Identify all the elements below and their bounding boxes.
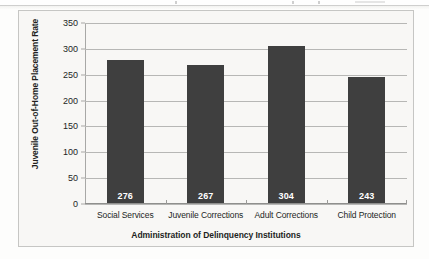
y-axis-title: Juvenile Out-of-Home Placement Rate — [30, 14, 40, 174]
chart-screenshot: Juvenile Out-of-Home Placement Rate 0501… — [0, 0, 429, 259]
bar-value-label: 304 — [278, 191, 294, 201]
bar-group: 243 — [327, 23, 408, 203]
chart-frame: Juvenile Out-of-Home Placement Rate 0501… — [18, 10, 414, 247]
bar[interactable]: 276 — [107, 60, 144, 203]
scan-artifact — [0, 0, 429, 9]
bar-group: 276 — [85, 23, 166, 203]
bars-layer: Social Services276Juvenile Corrections26… — [85, 23, 407, 204]
bar[interactable]: 304 — [268, 46, 305, 203]
y-tick-label: 150 — [63, 121, 78, 131]
bar[interactable]: 267 — [187, 65, 224, 203]
bar-value-label: 276 — [117, 191, 133, 201]
gridline — [85, 204, 407, 205]
x-category-label: Juvenile Corrections — [166, 210, 247, 220]
x-category-label: Child Protection — [327, 210, 408, 220]
x-tick-mark — [406, 200, 407, 204]
bar[interactable]: 243 — [348, 77, 385, 203]
y-tick-label: 300 — [63, 44, 78, 54]
bar-value-label: 243 — [359, 191, 375, 201]
y-tick-label: 250 — [63, 70, 78, 80]
y-tick-label: 100 — [63, 147, 78, 157]
y-tick-label: 350 — [63, 18, 78, 28]
y-tick-label: 0 — [73, 199, 78, 209]
x-category-label: Social Services — [85, 210, 166, 220]
y-tick-label: 200 — [63, 96, 78, 106]
bar-group: 304 — [246, 23, 327, 203]
bar-group: 267 — [166, 23, 247, 203]
x-category-label: Adult Corrections — [246, 210, 327, 220]
x-axis-title: Administration of Delinquency Institutio… — [19, 230, 413, 240]
bar-value-label: 267 — [198, 191, 214, 201]
plot-area: 050100150200250300350 Social Services276… — [85, 23, 407, 204]
y-tick-label: 50 — [68, 173, 78, 183]
